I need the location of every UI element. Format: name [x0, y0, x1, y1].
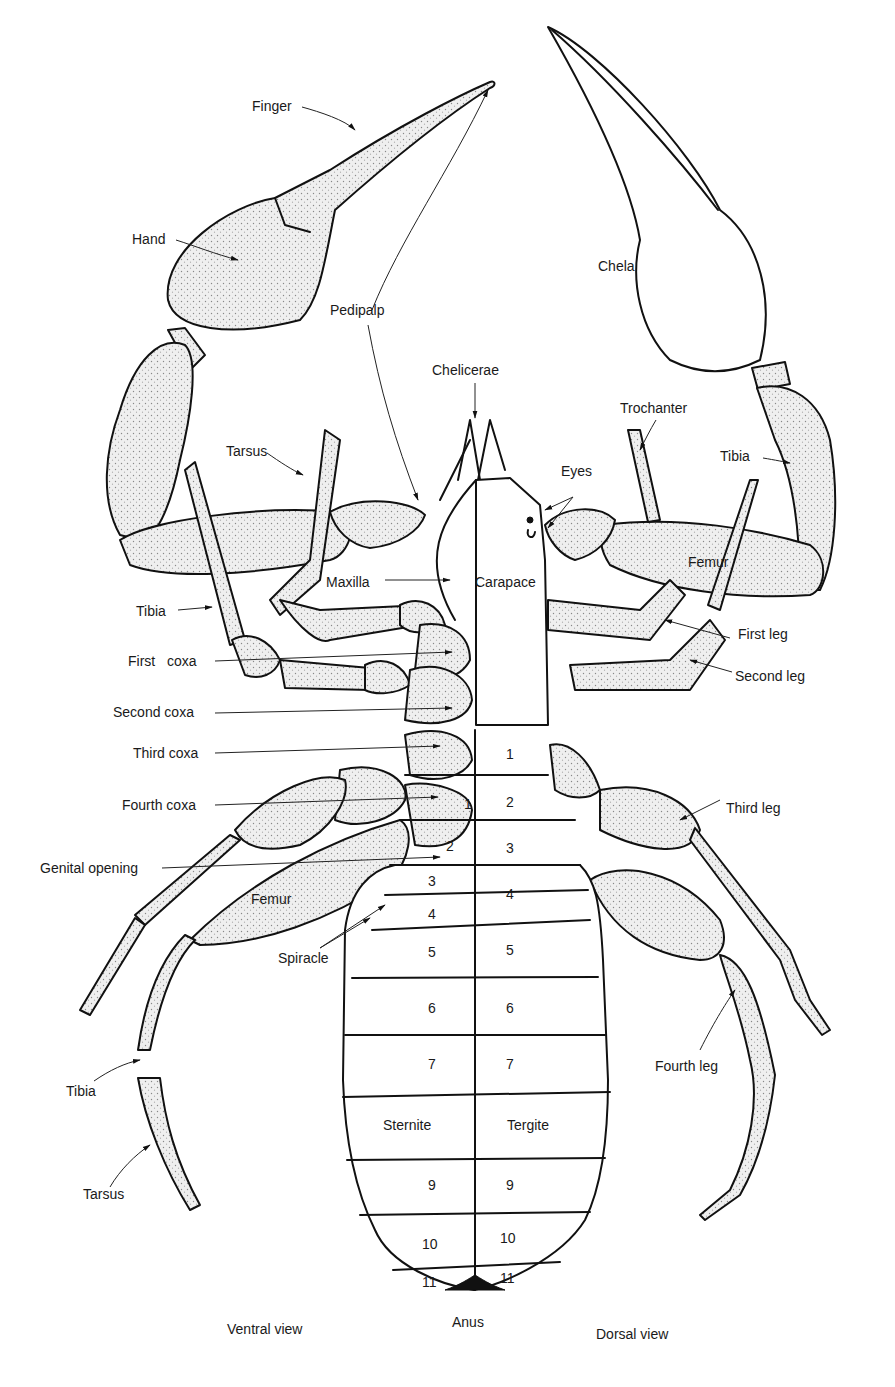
label-hand: Hand [132, 231, 165, 247]
label-second-leg: Second leg [735, 668, 805, 684]
label-genital-opening: Genital opening [40, 860, 138, 876]
label-dorsal-view: Dorsal view [596, 1326, 668, 1342]
label-chela: Chela [598, 258, 635, 274]
dorsal-segment-4: 4 [506, 886, 514, 902]
dorsal-segment-6: 6 [506, 1000, 514, 1016]
label-maxilla: Maxilla [326, 574, 370, 590]
ventral-segment-10: 10 [422, 1236, 438, 1252]
ventral-segment-7: 7 [428, 1056, 436, 1072]
dorsal-segment-3: 3 [506, 840, 514, 856]
dorsal-segment-2: 2 [506, 794, 514, 810]
label-first-leg: First leg [738, 626, 788, 642]
ventral-segment-1: 1 [464, 796, 472, 812]
ventral-segment-8-sternite: Sternite [383, 1117, 431, 1133]
label-ventral-view: Ventral view [227, 1321, 302, 1337]
label-tibia-leg: Tibia [136, 603, 166, 619]
label-tibia-palp: Tibia [720, 448, 750, 464]
dorsal-segment-5: 5 [506, 942, 514, 958]
label-tarsus-lower: Tarsus [83, 1186, 124, 1202]
label-tarsus-upper: Tarsus [226, 443, 267, 459]
label-tibia-lower: Tibia [66, 1083, 96, 1099]
ventral-segment-5: 5 [428, 944, 436, 960]
label-anus: Anus [452, 1314, 484, 1330]
label-third-leg: Third leg [726, 800, 780, 816]
label-femur-left: Femur [251, 891, 291, 907]
ventral-segment-11: 11 [422, 1274, 437, 1290]
pseudoscorpion-illustration [0, 0, 895, 1387]
label-first-coxa: First coxa [128, 653, 196, 669]
left-pedipalp [107, 82, 495, 574]
label-trochanter: Trochanter [620, 400, 687, 416]
label-femur-right: Femur [688, 554, 728, 570]
label-eyes: Eyes [561, 463, 592, 479]
ventral-segment-6: 6 [428, 1000, 436, 1016]
label-carapace: Carapace [475, 574, 536, 590]
label-chelicerae: Chelicerae [432, 362, 499, 378]
ventral-segment-4: 4 [428, 906, 436, 922]
ventral-segment-9: 9 [428, 1177, 436, 1193]
dorsal-segment-7: 7 [506, 1056, 514, 1072]
label-spiracle: Spiracle [278, 950, 329, 966]
label-third-coxa: Third coxa [133, 745, 198, 761]
label-fourth-coxa: Fourth coxa [122, 797, 196, 813]
label-fourth-leg: Fourth leg [655, 1058, 718, 1074]
ventral-segment-3: 3 [428, 873, 436, 889]
label-pedipalp: Pedipalp [330, 302, 385, 318]
dorsal-segment-11: 11 [500, 1270, 515, 1286]
dorsal-segment-10: 10 [500, 1230, 516, 1246]
dorsal-segment-8-tergite: Tergite [507, 1117, 549, 1133]
dorsal-segment-1: 1 [506, 746, 514, 762]
dorsal-segment-9: 9 [506, 1177, 514, 1193]
label-second-coxa: Second coxa [113, 704, 194, 720]
ventral-segment-2: 2 [446, 838, 454, 854]
right-pedipalp [545, 27, 835, 596]
label-finger: Finger [252, 98, 292, 114]
